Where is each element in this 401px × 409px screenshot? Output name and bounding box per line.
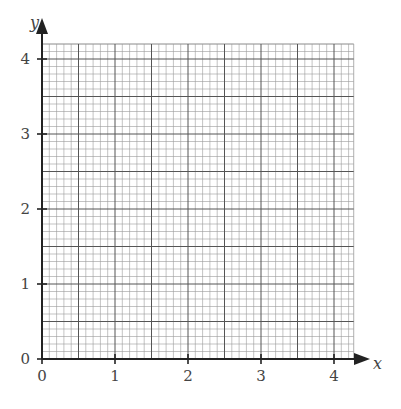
y-tick-label: 3 <box>20 125 30 143</box>
x-axis-arrow-icon <box>354 353 370 365</box>
x-tick-label: 1 <box>110 367 120 385</box>
x-tick-label: 4 <box>329 367 339 385</box>
y-axis-label: y <box>29 13 40 32</box>
y-tick-label: 2 <box>20 200 30 218</box>
x-tick-label: 0 <box>37 367 47 385</box>
x-tick-label: 3 <box>256 367 266 385</box>
y-tick-label: 4 <box>20 50 30 68</box>
x-tick-label: 2 <box>183 367 193 385</box>
y-tick-label: 1 <box>20 275 30 293</box>
ticks <box>37 59 334 364</box>
graph-paper-chart: 0123401234 x y <box>0 0 401 409</box>
x-axis-label: x <box>373 354 382 373</box>
tick-labels: 0123401234 <box>20 50 338 385</box>
minor-grid <box>42 44 354 359</box>
y-tick-label: 0 <box>20 350 30 368</box>
